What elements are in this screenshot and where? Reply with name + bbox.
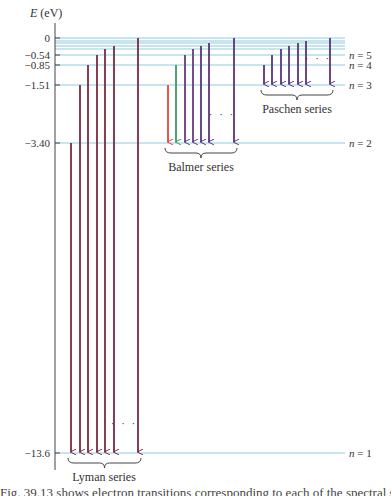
energy-tick-label: −0.54 xyxy=(25,49,51,61)
axis-title: E (eV) xyxy=(29,6,62,20)
level-label: n = 2 xyxy=(349,137,372,149)
energy-tick-label: −3.40 xyxy=(25,137,51,149)
level-label: n = 1 xyxy=(349,447,372,459)
level-labels: n = 1n = 2n = 3n = 4n = 5 xyxy=(349,49,372,459)
ellipsis: · · · xyxy=(209,108,236,120)
series-label: Balmer series xyxy=(168,160,234,174)
transition-arrows: · · ·· · ·· · · xyxy=(71,38,331,452)
ellipsis: · · · xyxy=(305,52,332,64)
caption-fragment: Fig. 39.13 shows electron transitions co… xyxy=(0,484,391,496)
series-label: Lyman series xyxy=(72,470,136,484)
series-label: Paschen series xyxy=(262,102,332,116)
series-brace xyxy=(68,458,141,468)
energy-levels xyxy=(55,38,345,453)
series-labels: Lyman seriesBalmer seriesPaschen series xyxy=(68,90,333,484)
level-label: n = 3 xyxy=(349,79,372,91)
ellipsis: · · · xyxy=(111,417,138,429)
energy-tick-label: −13.6 xyxy=(25,447,51,459)
energy-tick-label: −1.51 xyxy=(25,79,50,91)
level-label: n = 5 xyxy=(349,49,372,61)
series-brace xyxy=(165,148,237,158)
energy-tick-label: 0 xyxy=(45,32,51,44)
series-brace xyxy=(261,90,333,100)
